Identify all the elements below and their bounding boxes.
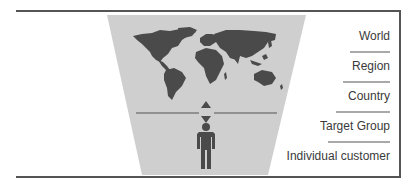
level-label-target-group: Target Group: [320, 119, 390, 133]
level-label-region: Region: [352, 59, 390, 73]
level-label-individual-customer: Individual customer: [287, 149, 390, 163]
level-label-world: World: [359, 29, 390, 43]
level-label-country: Country: [348, 89, 390, 103]
